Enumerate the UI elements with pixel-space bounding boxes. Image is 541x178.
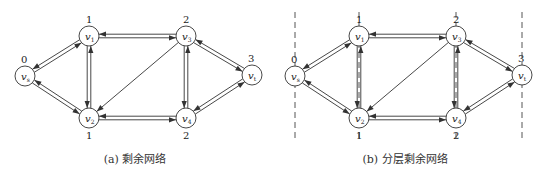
edge-vt-to-v3 <box>196 40 245 69</box>
arrowhead-icon <box>439 117 446 122</box>
arrowhead-icon <box>85 101 90 108</box>
edge-v2-to-v4 <box>369 117 446 122</box>
arrowhead-icon <box>303 63 310 69</box>
edge-vs-to-v2 <box>302 83 349 114</box>
arrowhead-icon <box>369 114 376 119</box>
caption-b: (b) 分层剩余网络 <box>270 150 540 166</box>
arrowhead-icon <box>169 35 176 40</box>
edge-v1-to-vs <box>303 40 350 69</box>
edge-vt-to-v4 <box>193 79 242 111</box>
node-v2: v21 <box>79 108 99 141</box>
arrowhead-icon <box>99 114 106 119</box>
layer-number: 1 <box>86 14 92 25</box>
node-vs: vs0 <box>15 54 35 86</box>
panel-b-layered-residual-network: vs0v11v21v32v42vt3 (b) 分层剩余网络 <box>270 0 540 178</box>
edge-v3-to-v2 <box>97 42 179 111</box>
edge-vs-to-v1 <box>34 43 81 72</box>
arrowhead-icon <box>88 46 93 53</box>
layer-number: 2 <box>183 14 189 25</box>
node-vt: vt3 <box>242 53 262 85</box>
residual-network-graph: vs0v11v21v32v42vt3 <box>0 0 270 150</box>
layer-number: 1 <box>86 130 92 141</box>
edge-v4-to-v3 <box>185 46 190 108</box>
arrowhead-icon <box>33 63 40 69</box>
edge-v3-to-vt <box>194 43 243 72</box>
node-v3: v32 <box>176 14 196 46</box>
edge-v2-to-v1 <box>88 46 93 108</box>
edge-v3-to-v2 <box>367 42 449 111</box>
layer-number: 3 <box>518 53 524 64</box>
layer-number: 2 <box>453 14 459 25</box>
edge-v2-to-v4 <box>99 117 176 122</box>
edge-v4-to-v2 <box>369 114 446 119</box>
edge-v1-to-v2 <box>85 46 90 108</box>
edge-v2-to-vs <box>304 80 351 111</box>
edge-v3-to-v4 <box>182 46 187 108</box>
node-v4: v42 <box>446 108 466 141</box>
layer-number: 2 <box>183 130 189 141</box>
layered-residual-network-graph: vs0v11v21v32v42vt3 <box>270 0 541 150</box>
edge-v1-to-vs <box>33 40 80 69</box>
edge-v2-to-vs <box>34 80 81 111</box>
edge-vt-to-v4 <box>463 79 512 111</box>
edge-v1-to-v3 <box>99 35 176 40</box>
arrowhead-icon <box>369 32 376 37</box>
arrowhead-icon <box>193 105 200 111</box>
edge-vs-to-v2 <box>32 83 79 114</box>
arrowhead-icon <box>169 117 176 122</box>
node-v3: v32 <box>446 14 466 46</box>
arrowhead-icon <box>344 43 351 49</box>
node-v1: v11 <box>349 14 369 46</box>
edge-v4-to-v2 <box>99 114 176 119</box>
edge-v3-to-v1 <box>369 32 446 37</box>
layer-number: 0 <box>291 54 297 65</box>
arrowhead-icon <box>182 101 187 108</box>
layer-number: 1 <box>356 14 362 25</box>
caption-a: (a) 剩余网络 <box>0 150 270 166</box>
node-vs: vs0 <box>285 54 305 86</box>
edge-v3-to-v1 <box>99 32 176 37</box>
edge-v3-to-vt <box>464 43 513 72</box>
layer-number: 2 <box>453 130 459 141</box>
edge-vs-to-v1 <box>304 43 351 72</box>
node-v2: v21 <box>349 108 369 141</box>
edge-v4-to-vt <box>465 82 514 114</box>
layer-number: 1 <box>356 130 362 141</box>
node-v4: v42 <box>176 108 196 141</box>
arrowhead-icon <box>439 35 446 40</box>
edge-vt-to-v3 <box>466 40 515 69</box>
arrowhead-icon <box>237 82 244 88</box>
layer-number: 3 <box>248 53 254 64</box>
node-v1: v11 <box>79 14 99 46</box>
arrowhead-icon <box>463 105 470 111</box>
node-vt: vt3 <box>512 53 532 85</box>
edge-v4-to-vt <box>195 82 244 114</box>
arrowhead-icon <box>507 82 514 88</box>
arrowhead-icon <box>185 46 190 53</box>
panel-a-residual-network: vs0v11v21v32v42vt3 (a) 剩余网络 <box>0 0 270 178</box>
edge-v1-to-v3 <box>369 35 446 40</box>
arrowhead-icon <box>99 32 106 37</box>
layer-number: 0 <box>21 54 27 65</box>
arrowhead-icon <box>74 43 81 49</box>
